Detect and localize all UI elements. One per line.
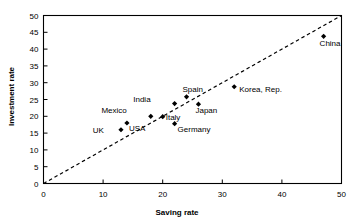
svg-text:30: 30: [30, 79, 39, 88]
svg-text:10: 10: [99, 190, 108, 199]
svg-text:50: 50: [30, 12, 39, 21]
svg-text:0: 0: [41, 190, 46, 199]
svg-text:45: 45: [30, 28, 39, 37]
scatter-chart: 01020304050 05101520253035404550 UKUSAMe…: [0, 0, 354, 224]
data-point-label: USA: [129, 124, 146, 133]
data-point-marker: [172, 121, 177, 126]
data-point-marker: [321, 34, 326, 39]
svg-text:5: 5: [34, 163, 39, 172]
x-axis-ticks: 01020304050: [41, 180, 346, 199]
data-point-label: Japan: [195, 106, 217, 115]
data-point-label: China: [320, 39, 341, 48]
svg-text:20: 20: [158, 190, 167, 199]
svg-text:25: 25: [30, 96, 39, 105]
data-point-label: UK: [93, 126, 105, 135]
x-axis-title: Saving rate: [0, 208, 354, 217]
data-point-label: Korea, Rep.: [239, 85, 282, 94]
data-point-marker: [148, 114, 153, 119]
svg-text:40: 40: [277, 190, 286, 199]
y-axis-ticks: 05101520253035404550: [30, 12, 48, 189]
svg-text:15: 15: [30, 129, 39, 138]
svg-text:30: 30: [218, 190, 227, 199]
chart-canvas: 01020304050 05101520253035404550 UKUSAMe…: [0, 0, 354, 224]
data-point-label: India: [133, 95, 151, 104]
svg-text:0: 0: [34, 180, 39, 189]
reference-line-45-degree: [44, 16, 342, 184]
svg-text:35: 35: [30, 62, 39, 71]
data-point-labels: UKUSAMexicoItalyIndiaGermanySpainJapanKo…: [93, 39, 341, 134]
data-point-marker: [232, 84, 237, 89]
data-point-label: Mexico: [101, 106, 127, 115]
y-axis-title: Investment rate: [7, 42, 16, 152]
svg-text:50: 50: [337, 190, 346, 199]
data-point-label: Spain: [183, 85, 203, 94]
svg-text:20: 20: [30, 112, 39, 121]
data-point-label: Germany: [178, 125, 211, 134]
data-point-marker: [184, 94, 189, 99]
data-point-marker: [172, 101, 177, 106]
data-point-label: Italy: [166, 113, 181, 122]
svg-text:40: 40: [30, 45, 39, 54]
svg-text:10: 10: [30, 146, 39, 155]
data-point-marker: [118, 127, 123, 132]
